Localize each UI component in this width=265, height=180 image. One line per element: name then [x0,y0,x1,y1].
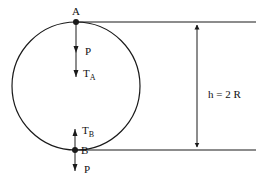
point-a-label: A [72,5,80,17]
top-tension-arrow-icon [74,70,79,77]
bottom-weight-arrow-icon [73,164,78,171]
bottom-tension-arrow-icon [73,129,78,136]
top-weight-arrow-icon [74,46,79,53]
bottom-weight-label: P [84,163,90,175]
height-label: h = 2 R [208,88,241,100]
top-tension-label: TA [83,67,96,82]
loop-diagram: h = 2 R A P TA B TB P [0,0,265,180]
bottom-tension-label: TB [82,124,94,139]
top-weight-label: P [85,45,91,57]
point-b-label: B [81,144,88,156]
